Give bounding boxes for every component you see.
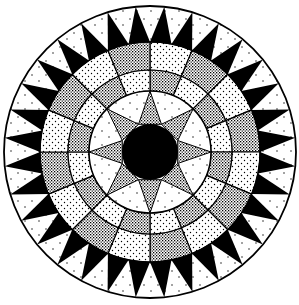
compass-quilt-illustration (0, 0, 299, 305)
center-disk (122, 124, 178, 180)
black-center-disk (122, 124, 178, 180)
